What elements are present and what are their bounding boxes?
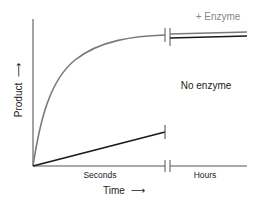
no-enzyme-line-seconds (33, 132, 165, 166)
no-enzyme-line-hours (170, 36, 247, 38)
no-enzyme-label: No enzyme (181, 80, 232, 91)
hours-label: Hours (194, 170, 217, 180)
reaction-rate-diagram: + Enzyme No enzyme Seconds Hours Time ⟶ … (0, 0, 261, 200)
y-axis-arrow: ⟶ (13, 63, 24, 77)
enzyme-label: + Enzyme (196, 11, 241, 22)
seconds-label: Seconds (83, 170, 116, 180)
x-axis-title: Time (103, 185, 125, 196)
x-axis-arrow: ⟶ (131, 185, 145, 196)
y-axis-title: Product (13, 83, 24, 118)
enzyme-line-hours (170, 32, 247, 34)
enzyme-curve-seconds (33, 35, 165, 166)
